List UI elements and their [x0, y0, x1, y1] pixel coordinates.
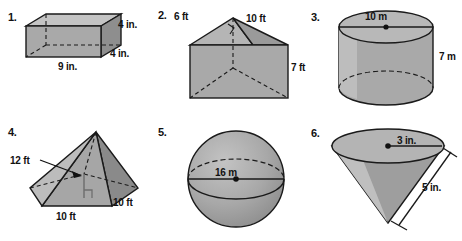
problem-3: 3. 10 m 7 m [305, 0, 462, 118]
problem-6-label-radius: 3 in. [397, 135, 416, 146]
problem-2-label-leg-6ft: 6 ft [174, 11, 188, 22]
problem-1-label-height: 4 in. [118, 19, 137, 30]
problem-4-label-base-front: 10 ft [56, 211, 76, 222]
problem-1-label-depth: 4 in. [110, 48, 129, 59]
problem-2-number: 2. [158, 9, 167, 21]
problem-1: 1. 9 in. 4 in. 4 in. [0, 0, 150, 118]
problem-1-label-length: 9 in. [58, 61, 77, 72]
prism-front-face [26, 26, 101, 57]
sphere-figure [183, 127, 293, 233]
cone-slant-tick-bottom [391, 221, 407, 230]
problem-6: 6. 3 in. 5 in. [305, 118, 462, 241]
cone-figure [329, 126, 459, 234]
problem-3-number: 3. [311, 11, 320, 23]
problem-6-number: 6. [311, 127, 320, 139]
problem-4-label-height: 12 ft [10, 155, 30, 166]
problem-2-label-leg-10ft: 10 ft [246, 13, 266, 24]
cylinder-center-dot [383, 24, 388, 29]
square-pyramid-figure [24, 126, 150, 226]
cone-center-dot [385, 143, 391, 149]
cylinder-figure [335, 10, 445, 112]
problem-5-label-diameter: 16 m [215, 167, 237, 178]
problem-4-label-base-right: 10 ft [113, 197, 133, 208]
problem-3-label-diameter: 10 m [365, 11, 387, 22]
problem-2: 2. 6 ft 10 ft 7 ft [150, 0, 305, 118]
problem-6-label-slant-height: 5 in. [422, 182, 441, 193]
triangular-prism-figure [178, 10, 300, 110]
worksheet-figures-sheet: 1. 9 in. 4 in. 4 in. 2. [0, 0, 462, 241]
problem-4: 4. 12 ft [0, 118, 150, 241]
problem-5-number: 5. [158, 126, 167, 138]
problem-1-number: 1. [8, 11, 17, 23]
problem-4-number: 4. [8, 126, 17, 138]
problem-5: 5. 16 m [150, 118, 305, 241]
problem-3-label-height: 7 m [439, 51, 456, 62]
cone-slant-tick-top [443, 148, 457, 157]
problem-2-label-prism-height: 7 ft [291, 62, 305, 73]
